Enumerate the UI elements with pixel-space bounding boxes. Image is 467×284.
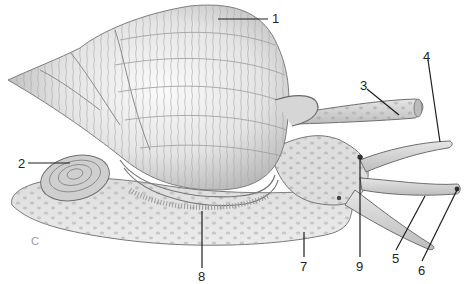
- label-5: 5: [392, 252, 399, 265]
- label-8: 8: [198, 270, 205, 283]
- panel-letter: C: [31, 236, 39, 247]
- label-9: 9: [356, 260, 363, 273]
- label-7: 7: [300, 260, 307, 273]
- eye-lower: [337, 196, 341, 200]
- leader-4: [428, 60, 440, 142]
- label-3: 3: [360, 79, 367, 92]
- label-4: 4: [423, 50, 430, 63]
- leader-6: [422, 188, 458, 261]
- label-2: 2: [18, 157, 25, 170]
- label-6: 6: [418, 264, 425, 277]
- label-1: 1: [272, 12, 279, 25]
